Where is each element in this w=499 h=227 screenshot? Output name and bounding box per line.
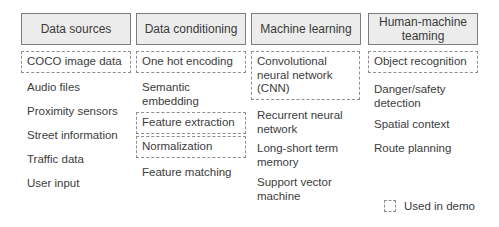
list-item: Feature matching bbox=[136, 166, 246, 180]
list-item-demo: COCO image data bbox=[21, 51, 131, 73]
column-human-machine-teaming: Human-machine teaming Object recognition… bbox=[368, 13, 478, 45]
list-item: Semantic embedding bbox=[136, 81, 226, 108]
column-header: Human-machine teaming bbox=[368, 13, 478, 45]
column-header: Data sources bbox=[21, 13, 131, 45]
column-data-sources: Data sources COCO image data Audio files… bbox=[21, 13, 131, 45]
list-item: Danger/safety detection bbox=[368, 83, 463, 110]
list-item: Proximity sensors bbox=[21, 105, 131, 119]
list-item: Spatial context bbox=[368, 118, 478, 132]
list-item: Long-short term memory bbox=[251, 142, 351, 169]
column-header: Machine learning bbox=[251, 13, 361, 45]
legend-label: Used in demo bbox=[404, 200, 475, 212]
column-header: Data conditioning bbox=[136, 13, 246, 45]
column-data-conditioning: Data conditioning One hot encoding Seman… bbox=[136, 13, 246, 45]
list-item: Street information bbox=[21, 129, 131, 143]
list-item: Recurrent neural network bbox=[251, 109, 351, 136]
list-item: Route planning bbox=[368, 142, 478, 156]
list-item-demo: One hot encoding bbox=[136, 51, 246, 73]
list-item: User input bbox=[21, 177, 131, 191]
list-item: Traffic data bbox=[21, 153, 131, 167]
list-item-demo: Feature extraction bbox=[136, 112, 246, 134]
list-item-demo: Normalization bbox=[136, 136, 246, 158]
column-machine-learning: Machine learning Convolutional neural ne… bbox=[251, 13, 361, 45]
list-item-demo: Object recognition bbox=[368, 51, 478, 73]
list-item: Support vector machine bbox=[251, 176, 351, 203]
dashed-box-icon bbox=[384, 200, 396, 212]
list-item: Audio files bbox=[21, 81, 131, 95]
legend: Used in demo bbox=[384, 200, 475, 212]
list-item-demo: Convolutional neural network (CNN) bbox=[251, 51, 360, 100]
